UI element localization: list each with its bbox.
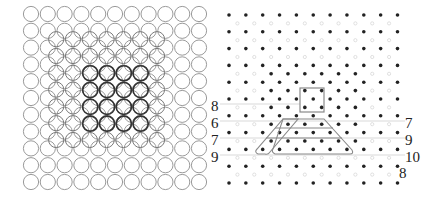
- label-left-2: 6: [211, 115, 219, 131]
- left-labels: 8 6 7 9: [211, 98, 219, 165]
- label-left-1: 8: [211, 98, 219, 114]
- left-circle-lattice: [23, 6, 206, 189]
- label-right-3: 10: [405, 149, 420, 165]
- label-right-4: 8: [399, 165, 407, 181]
- label-right-1: 7: [405, 115, 413, 131]
- right-dot-lattice: [220, 13, 405, 185]
- right-labels: 7 9 10 8: [399, 115, 420, 181]
- figure: 8 6 7 9 7 9 10 8: [0, 0, 434, 197]
- label-left-3: 7: [211, 132, 219, 148]
- label-left-4: 9: [211, 149, 219, 165]
- label-right-2: 9: [405, 132, 413, 148]
